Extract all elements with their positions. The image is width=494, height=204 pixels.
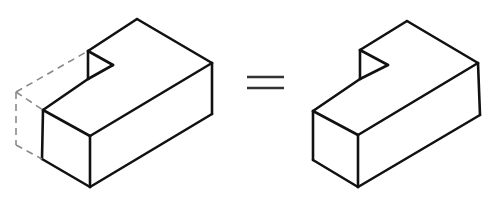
solid-edge [42,110,43,159]
solid-edge [358,115,480,187]
solid-edge [88,65,113,79]
solid-edge [360,50,388,65]
solid-edge [360,21,407,50]
solid-edge [137,19,212,63]
right-figure-resulting-block [313,21,480,187]
solid-edge [358,63,478,135]
solid-edge [42,159,90,187]
dashed-edge [16,92,43,110]
diagram-canvas [0,0,494,204]
solid-edge [478,63,480,115]
dashed-edge [16,145,42,159]
solid-edge [43,110,90,136]
solid-edge [88,19,137,51]
equals-sign [247,77,284,88]
solid-edge [313,111,358,135]
solid-edge [360,65,388,79]
solid-edge [43,79,88,110]
solid-edge [313,79,360,111]
solid-edge [407,21,478,63]
solid-edge [313,160,358,187]
left-figure-block-with-removed-part [42,19,212,187]
solid-edge [88,51,113,65]
